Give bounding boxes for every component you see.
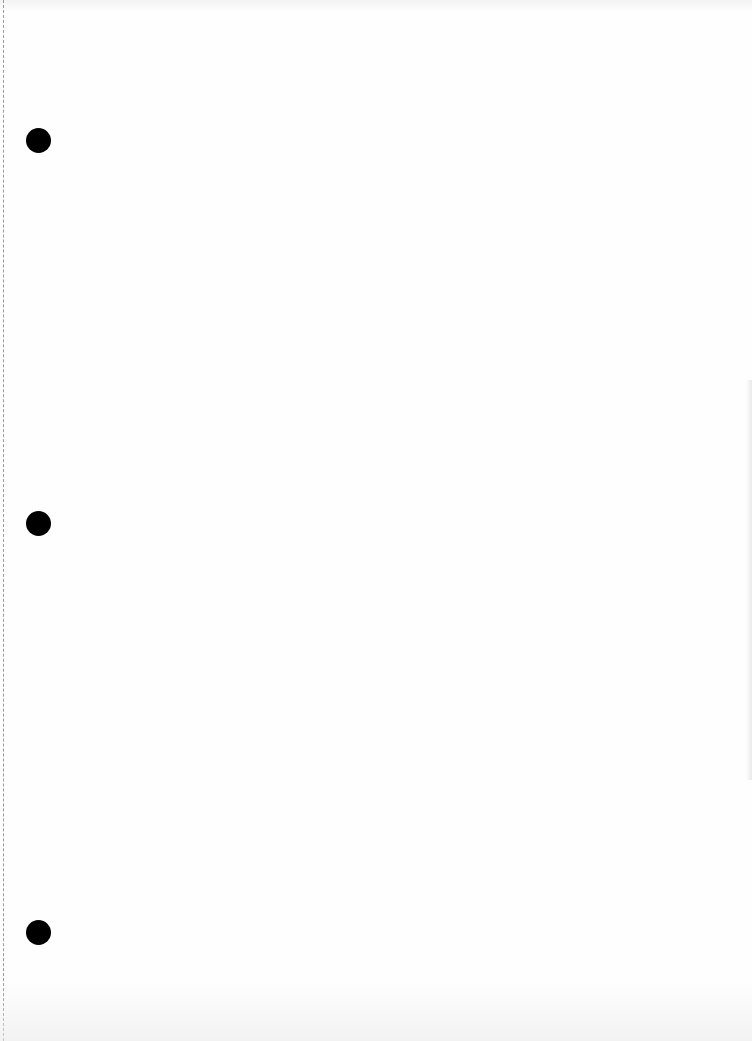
page-edge-dashed-line: [3, 0, 4, 1041]
scanned-page: [0, 0, 752, 1041]
scan-noise-bottom: [0, 981, 752, 1041]
scan-noise-top: [0, 0, 752, 12]
scan-noise-right: [746, 380, 752, 780]
punch-hole-bottom: [26, 920, 51, 945]
punch-hole-top: [26, 128, 51, 153]
punch-hole-middle: [26, 511, 51, 536]
